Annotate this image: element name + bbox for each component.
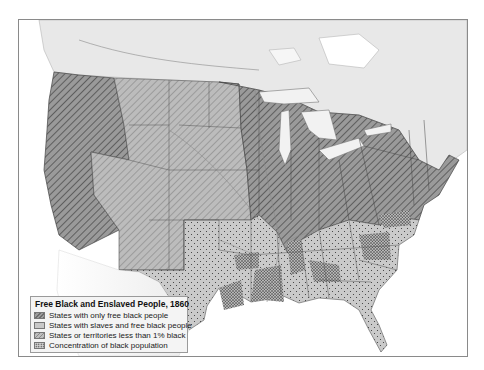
solid-gray-swatch-icon [34,322,45,329]
hatch-light-swatch-icon [34,332,45,339]
legend-label: States with only free black people [49,311,168,320]
map-legend: Free Black and Enslaved People, 1860 Sta… [30,296,188,353]
dot-swatch-icon [34,342,45,349]
hatch-dark-swatch-icon [34,312,45,319]
legend-title: Free Black and Enslaved People, 1860 [35,299,184,309]
legend-item-concentration: Concentration of black population [34,340,184,350]
legend-label: States or territories less than 1% black [49,331,186,340]
legend-item-slave: States with slaves and free black people [34,320,184,330]
legend-item-territory: States or territories less than 1% black [34,330,184,340]
legend-label: Concentration of black population [49,341,168,350]
legend-item-free: States with only free black people [34,310,184,320]
legend-label: States with slaves and free black people [49,321,192,330]
